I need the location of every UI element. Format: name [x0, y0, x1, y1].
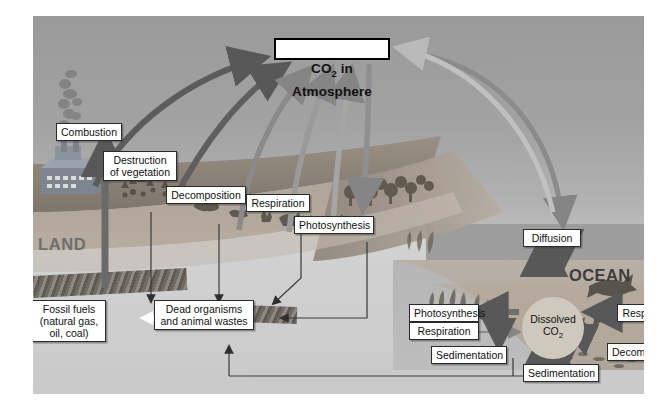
co2-formula: CO	[311, 61, 331, 76]
label-photosynthesis-ocean: Photosynthesis	[409, 304, 479, 322]
illustration-canvas: LAND OCEAN Dissolved CO2 CO2 in Atmosphe…	[33, 16, 644, 394]
label-dead-organisms: Dead organisms and animal wastes	[154, 300, 254, 330]
dissolved-co2-formula: CO	[543, 325, 559, 337]
label-sedimentation-left: Sedimentation	[431, 346, 507, 364]
label-respiration-land: Respiration	[246, 194, 310, 212]
label-diffusion: Diffusion	[523, 229, 581, 247]
arrow-photosynthesis-to-dead	[281, 242, 367, 318]
label-photosynthesis-land: Photosynthesis	[294, 216, 374, 234]
arrow-atmosphere-to-diffusion	[405, 52, 563, 224]
dissolved-co2-node: Dissolved CO2	[522, 297, 584, 359]
region-label-ocean: OCEAN	[569, 266, 631, 285]
arrow-animals-to-dead	[273, 232, 301, 304]
label-combustion: Combustion	[56, 123, 122, 141]
label-sedimentation-right: Sedimentation	[523, 364, 599, 382]
label-fossil-fuels: Fossil fuels (natural gas, oil, coal)	[33, 300, 106, 342]
dissolved-co2-subscript: 2	[559, 332, 563, 341]
carbon-cycle-diagram: LAND OCEAN Dissolved CO2 CO2 in Atmosphe…	[0, 0, 669, 411]
label-respiration-ocean-right: Respiration	[617, 304, 644, 322]
label-decomposition-ocean: Decomposition	[607, 343, 644, 361]
label-decomposition-land: Decomposition	[166, 186, 246, 204]
region-label-land: LAND	[38, 235, 86, 254]
label-respiration-ocean-left: Respiration	[409, 322, 479, 340]
co2-in-atmosphere-box: CO2 in Atmosphere	[274, 38, 390, 60]
label-destruction-of-vegetation: Destruction of vegetation	[103, 151, 177, 181]
arrowhead-dead-to-fossilfuels	[139, 311, 153, 325]
dissolved-word: Dissolved	[530, 313, 576, 325]
